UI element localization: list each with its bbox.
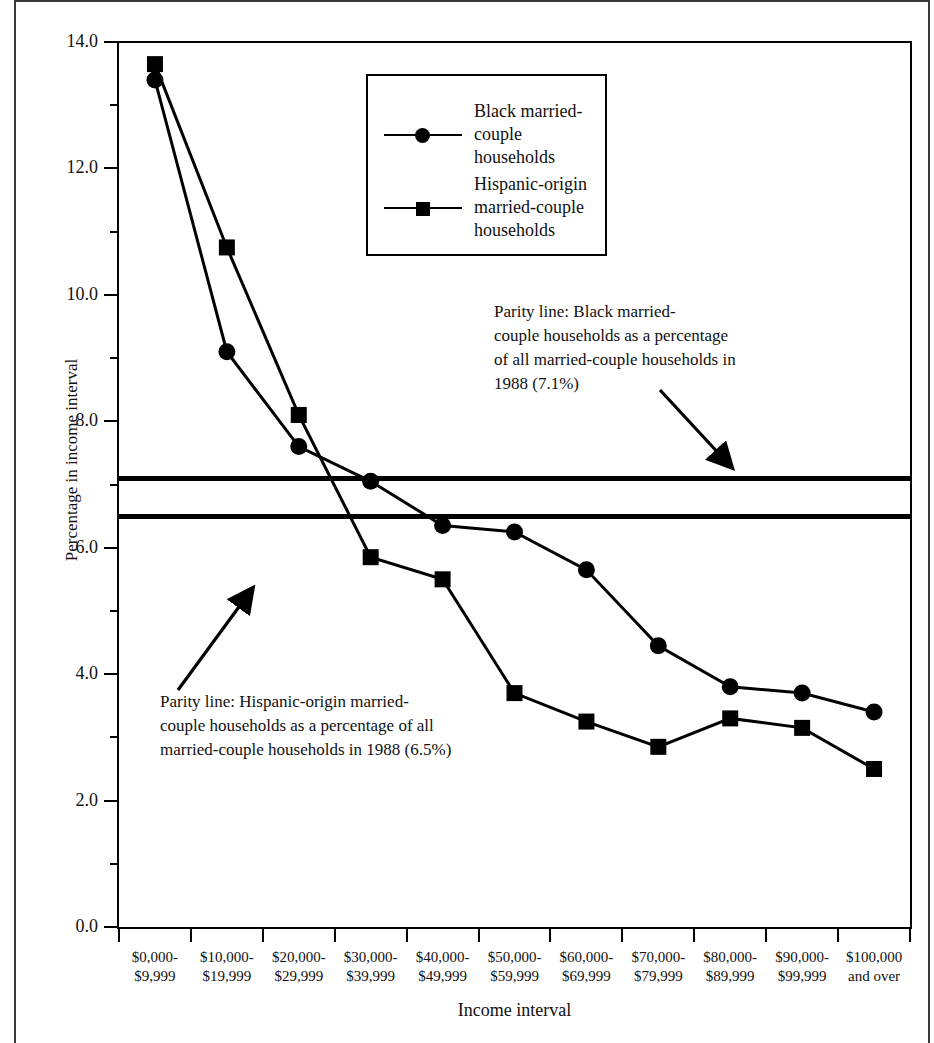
data-point-circle[interactable] [218,343,235,360]
legend-item-black[interactable]: Black married- couple households [368,100,605,169]
x-tick [478,928,480,942]
x-tick [621,928,623,942]
x-tick [837,928,839,942]
y-tick-major [104,41,119,43]
data-point-square[interactable] [650,739,666,755]
y-tick-major [104,167,119,169]
data-point-square[interactable] [722,710,738,726]
x-tick [909,928,911,942]
x-tick [334,928,336,942]
y-tick-label: 14.0 [67,32,99,50]
hispanic-parity-arrow [178,600,244,690]
data-point-circle[interactable] [290,438,307,455]
y-tick-minor [110,484,119,486]
legend-label-hispanic: Hispanic-origin married-couple household… [474,173,587,242]
data-point-circle[interactable] [434,517,451,534]
bottom-caption [110,1032,850,1043]
black-parity-annotation-text: Parity line: Black married- couple house… [494,300,824,396]
chart-legend: Black married- couple households Hispani… [366,74,607,256]
data-point-circle[interactable] [146,71,163,88]
data-point-circle[interactable] [578,561,595,578]
x-tick [693,928,695,942]
x-tick [406,928,408,942]
data-point-square[interactable] [291,407,307,423]
data-point-circle[interactable] [794,685,811,702]
data-point-square[interactable] [219,239,235,255]
y-tick-minor [110,357,119,359]
legend-label-black: Black married- couple households [474,100,605,169]
data-point-circle[interactable] [506,523,523,540]
y-tick-minor [110,863,119,865]
data-point-square[interactable] [794,720,810,736]
x-tick-label: $100,000 and over [829,948,919,986]
legend-marker-circle-icon [384,125,462,145]
y-tick-major [104,673,119,675]
x-tick [262,928,264,942]
x-axis-line [117,927,912,929]
data-point-square[interactable] [363,549,379,565]
y-tick-major [104,420,119,422]
data-point-circle[interactable] [650,637,667,654]
data-point-square[interactable] [507,685,523,701]
data-point-square[interactable] [578,714,594,730]
legend-marker-square-icon [384,198,462,218]
data-point-square[interactable] [435,571,451,587]
data-point-square[interactable] [147,56,163,72]
black-parity-arrow [660,390,722,457]
y-tick-label: 4.0 [76,664,99,682]
y-tick-major [104,294,119,296]
y-tick-label: 12.0 [67,158,99,176]
y-axis-title: Percentage in income interval [62,350,82,570]
data-point-circle[interactable] [722,678,739,695]
y-tick-major [104,547,119,549]
y-tick-major [104,926,119,928]
x-tick [549,928,551,942]
plot-right-border [910,41,912,929]
x-tick [765,928,767,942]
y-tick-minor [110,736,119,738]
y-tick-minor [110,231,119,233]
hispanic-parity-line [119,514,910,519]
hispanic-parity-annotation-text: Parity line: Hispanic-origin married- co… [160,690,500,762]
data-point-circle[interactable] [866,704,883,721]
y-tick-major [104,800,119,802]
y-tick-label: 0.0 [76,917,99,935]
y-tick-label: 10.0 [67,285,99,303]
black-parity-line [119,476,910,481]
y-tick-label: 2.0 [76,791,99,809]
y-tick-minor [110,104,119,106]
chart-plot-area: 0.02.04.06.08.010.012.014.0 $0,000- $9,9… [0,0,934,1043]
x-tick [190,928,192,942]
data-point-square[interactable] [866,761,882,777]
legend-item-hispanic[interactable]: Hispanic-origin married-couple household… [368,173,605,242]
x-tick [118,928,120,942]
y-tick-minor [110,610,119,612]
x-axis-title: Income interval [117,1000,912,1021]
plot-top-border [117,41,912,43]
